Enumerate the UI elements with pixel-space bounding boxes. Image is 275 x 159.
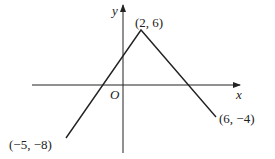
origin-label: O — [110, 87, 120, 102]
graph-canvas: y x O (2, 6) (−5, −8) (6, −4) — [0, 0, 275, 159]
point-label-peak: (2, 6) — [135, 15, 163, 30]
point-label-right: (6, −4) — [219, 111, 255, 126]
point-label-left: (−5, −8) — [9, 137, 52, 152]
graph-line — [66, 30, 216, 138]
y-axis-label: y — [110, 3, 118, 18]
x-axis-label: x — [235, 87, 242, 102]
